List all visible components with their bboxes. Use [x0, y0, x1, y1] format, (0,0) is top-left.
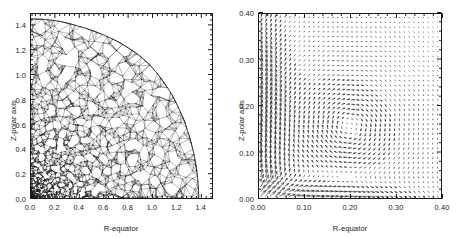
x-tick-label: 0.10	[297, 203, 312, 212]
y-tick-label: 0.00	[229, 195, 254, 204]
y-tick-label: 0.40	[229, 9, 254, 18]
x-tick-label: 1.2	[171, 203, 182, 212]
x-tick-label: 0.00	[251, 203, 266, 212]
y-tick-label: 1.4	[0, 21, 26, 30]
x-tick-label: 0.6	[98, 203, 109, 212]
x-tick-label: 0.30	[389, 203, 404, 212]
mesh-panel: 0.00.20.40.60.81.01.21.4 0.00.20.40.60.8…	[0, 0, 229, 238]
velocity-arrow-shafts	[261, 14, 439, 197]
x-tick-label: 0.40	[435, 203, 450, 212]
mesh-nodes	[31, 18, 199, 198]
y-tick-label: 1.0	[0, 71, 26, 80]
mesh-plot-area	[31, 14, 212, 198]
y-tick-label: 0.2	[0, 170, 26, 179]
velocity-panel: 0.000.100.200.300.40 0.000.100.200.300.4…	[229, 0, 458, 238]
x-tick-label: 0.4	[74, 203, 85, 212]
x-tick-label: 0.2	[49, 203, 60, 212]
x-tick-label: 1.0	[147, 203, 158, 212]
x-tick-label: 0.20	[343, 203, 358, 212]
y-tick-label: 1.2	[0, 46, 26, 55]
y-tick-label: 0.30	[229, 55, 254, 64]
mesh-y-axis-title: Z-polar axis	[9, 100, 18, 141]
x-tick-label: 0.0	[25, 203, 36, 212]
velocity-y-axis-title: Z-polar axis	[237, 100, 246, 141]
y-tick-label: 0.4	[0, 145, 26, 154]
y-tick-label: 0.10	[229, 148, 254, 157]
velocity-plot-frame	[258, 13, 442, 199]
mesh-x-axis-title: R-equator	[104, 224, 139, 233]
velocity-plot-area	[259, 14, 441, 198]
mesh-plot-frame	[30, 13, 213, 199]
x-tick-label: 0.8	[122, 203, 133, 212]
velocity-x-axis-title: R-equator	[333, 224, 368, 233]
x-tick-label: 1.4	[196, 203, 207, 212]
figure-container: 0.00.20.40.60.81.01.21.4 0.00.20.40.60.8…	[0, 0, 458, 238]
y-tick-label: 0.0	[0, 195, 26, 204]
